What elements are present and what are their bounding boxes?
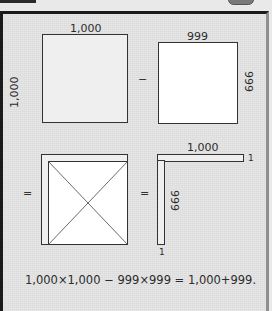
identity-formula: 1,000×1,000 − 999×999 = 1,000+999.	[25, 273, 256, 287]
small-square-side-label: 999	[243, 71, 254, 92]
l-shape-vertical-bar	[157, 160, 165, 245]
minus-operator: −	[138, 74, 147, 85]
equals-operator-middle: =	[140, 188, 149, 199]
l-shape-horizontal-bar	[157, 154, 244, 162]
l-shape-bottom-corner-label: 1	[159, 248, 165, 257]
l-shape-top-label: 1,000	[187, 142, 219, 153]
large-square-top-label: 1,000	[70, 23, 102, 34]
large-square	[42, 34, 128, 123]
l-shape-side-label: 999	[169, 190, 180, 211]
top-right-button[interactable]	[228, 0, 254, 5]
diagonal-cross-icon	[48, 161, 128, 245]
small-square-top-label: 999	[187, 31, 208, 42]
diagram-panel: 1,000 1,000 − 999 999 = = 1,000 1 999 1 …	[0, 11, 269, 311]
equals-operator-left: =	[23, 188, 32, 199]
l-shape-right-corner-label: 1	[248, 154, 254, 163]
toolbar-edge	[0, 0, 36, 3]
small-square	[158, 42, 238, 124]
decomposed-square-inner	[48, 161, 128, 245]
large-square-side-label: 1,000	[9, 77, 20, 109]
